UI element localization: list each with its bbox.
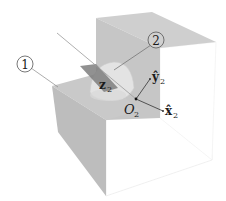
svg-text:2: 2 xyxy=(173,111,178,120)
leader-line-1 xyxy=(31,68,58,87)
svg-text:x̂: x̂ xyxy=(165,104,173,118)
svg-text:ŷ: ŷ xyxy=(151,70,160,84)
label-body2: 2 xyxy=(148,32,164,48)
y-axis-arrowhead xyxy=(149,78,151,80)
x-axis-arrowhead xyxy=(162,110,164,112)
svg-text:2: 2 xyxy=(160,77,165,86)
origin-dot xyxy=(135,98,138,101)
svg-text:1: 1 xyxy=(21,58,29,72)
svg-text:2: 2 xyxy=(152,34,160,48)
svg-text:2: 2 xyxy=(134,110,139,119)
svg-text:2: 2 xyxy=(107,85,112,94)
diagram-canvas: 1 2 z 2 ŷ 2 x̂ 2 O 2 xyxy=(0,0,226,201)
label-body1: 1 xyxy=(17,56,33,72)
svg-text:z: z xyxy=(99,78,106,92)
